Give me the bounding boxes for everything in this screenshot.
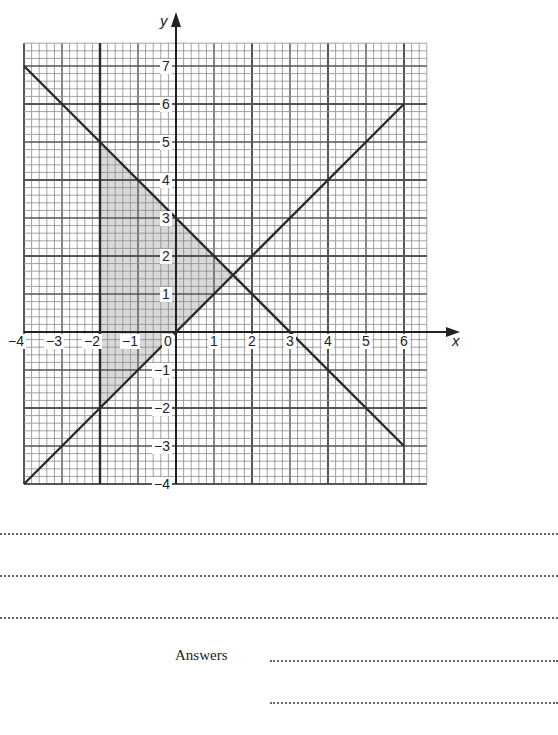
y-tick-label: −4 xyxy=(154,476,170,492)
y-tick-label: 7 xyxy=(162,58,170,74)
answer-line-2[interactable] xyxy=(270,702,558,704)
working-line-2[interactable] xyxy=(0,575,558,577)
y-tick-label: 2 xyxy=(162,248,170,264)
x-tick-label: 4 xyxy=(324,333,332,349)
working-line-1[interactable] xyxy=(0,533,558,535)
y-tick-label: 3 xyxy=(162,210,170,226)
y-tick-label: 6 xyxy=(162,96,170,112)
y-tick-label: 1 xyxy=(162,286,170,302)
x-tick-label: −1 xyxy=(122,333,138,349)
x-tick-label: −4 xyxy=(8,333,24,349)
x-tick-label: −2 xyxy=(84,333,100,349)
x-tick-label: 1 xyxy=(210,333,218,349)
y-tick-label: 5 xyxy=(162,134,170,150)
x-tick-label: 2 xyxy=(248,333,256,349)
x-tick-label: 0 xyxy=(164,333,172,349)
y-tick-label: −3 xyxy=(154,438,170,454)
grid xyxy=(24,43,427,484)
x-tick-label: 5 xyxy=(362,333,370,349)
answers-label: Answers xyxy=(175,647,228,664)
x-tick-label: 3 xyxy=(286,333,294,349)
y-tick-label: −1 xyxy=(154,362,170,378)
y-axis-arrow-icon xyxy=(171,12,181,27)
answer-line-1[interactable] xyxy=(270,660,558,662)
x-axis-label: x xyxy=(451,332,460,349)
x-tick-label: −3 xyxy=(46,333,62,349)
y-axis-label: y xyxy=(159,12,169,29)
working-line-3[interactable] xyxy=(0,617,558,619)
x-tick-label: 6 xyxy=(400,333,408,349)
y-tick-label: 4 xyxy=(162,172,170,188)
y-tick-label: −2 xyxy=(154,400,170,416)
coordinate-graph: xy −4−3−2−10123456−4−3−2−11234567 xyxy=(0,0,558,500)
